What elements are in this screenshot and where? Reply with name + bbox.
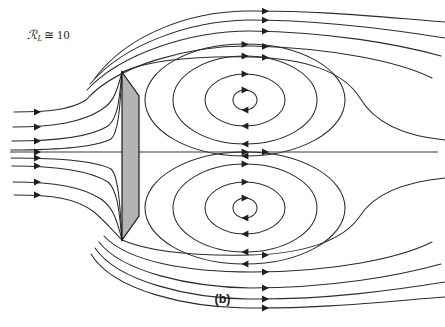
arrow-vortex-lower-core-top (242, 195, 249, 202)
panel-caption: (b) (0, 292, 445, 306)
arrow-vortex-lower-outer-bottom (241, 261, 248, 268)
lower-inlet-streamlines (11, 158, 122, 240)
arrow-inlet-upper-3 (34, 138, 41, 145)
arrow-vortex-upper-inner-top (242, 71, 249, 78)
vortex-core-upper (233, 90, 257, 110)
upper-recirculation-vortex (145, 44, 345, 156)
streamline-upper-2 (90, 20, 445, 84)
arrow-inlet-upper-2 (34, 124, 41, 131)
arrow-vortex-upper-inner-bottom (241, 123, 248, 130)
streamline-upper-dividing (122, 57, 445, 140)
streamline-inlet-lower-2 (13, 182, 122, 240)
figure-panel: ℛL≅10 (0, 0, 445, 327)
reynolds-symbol: ℛ (27, 27, 38, 42)
arrow-upper-dividing (262, 54, 269, 61)
arrow-upper-3 (262, 28, 269, 35)
streamline-diagram (0, 0, 445, 327)
streamline-inlet-upper-2 (13, 72, 122, 127)
arrow-inlet-lower-1 (34, 192, 41, 199)
arrow-inlet-upper-1 (34, 109, 41, 116)
streamline-upper-4 (86, 46, 432, 100)
arrow-vortex-upper-core-bottom (241, 107, 248, 114)
arrow-inlet-lower-4 (34, 155, 41, 162)
vortex-ring-upper-inner (205, 74, 285, 126)
arrow-lower-dividing (262, 252, 269, 259)
upper-freestream-streamlines (86, 11, 445, 100)
arrow-vortex-lower-inner-bottom (241, 231, 248, 238)
vortex-ring-lower-outer (145, 152, 345, 264)
arrow-upper-2 (262, 17, 269, 24)
streamline-upper-3 (87, 31, 441, 90)
vortex-ring-upper-outer (145, 44, 345, 156)
reynolds-number-label: ℛL≅10 (27, 27, 70, 43)
arrow-upper-1 (262, 8, 269, 15)
arrow-inlet-lower-2 (34, 179, 41, 186)
arrow-vortex-upper-outer-top (242, 41, 249, 48)
vortex-ring-upper-mid (173, 56, 317, 144)
arrow-lower-3 (262, 285, 269, 292)
reynolds-value: 10 (57, 28, 70, 42)
arrow-vortex-lower-mid-bottom (241, 249, 248, 256)
vortex-core-lower (233, 198, 257, 218)
arrow-upper-4 (262, 43, 269, 50)
streamline-inlet-upper-1 (14, 100, 86, 112)
vortex-ring-lower-mid (173, 164, 317, 252)
vortex-ring-lower-inner (205, 182, 285, 234)
arrow-vortex-lower-mid-top (242, 161, 249, 168)
arrow-vortex-lower-inner-top (242, 179, 249, 186)
arrow-lower-4 (262, 269, 269, 276)
arrow-vortex-lower-core-bottom (241, 215, 248, 222)
approx-equal-sign: ≅ (42, 28, 57, 42)
arrow-vortex-upper-mid-top (242, 53, 249, 60)
flat-plate (122, 72, 139, 240)
arrow-vortex-upper-mid-bottom (241, 141, 248, 148)
lower-recirculation-vortex (145, 152, 345, 264)
arrow-inlet-lower-3 (34, 163, 41, 170)
streamline-inlet-lower-1 (14, 195, 122, 240)
streamline-lower-dividing (122, 178, 445, 255)
arrow-vortex-upper-core-top (242, 87, 249, 94)
